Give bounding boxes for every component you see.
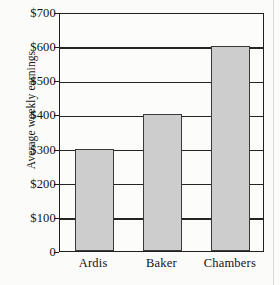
x-axis-tick-label: Ardis — [79, 256, 108, 271]
y-axis-tick-label: $100 — [2, 210, 56, 225]
bar — [143, 114, 182, 251]
page-edge-line — [273, 0, 274, 285]
plot-area — [59, 13, 264, 252]
y-axis-tick-label: $500 — [2, 74, 56, 89]
y-axis-tick-label: 0 — [2, 245, 56, 260]
x-axis-tick-label: Chambers — [204, 256, 256, 271]
y-axis-tick-label: $200 — [2, 176, 56, 191]
bar-group — [60, 14, 263, 251]
y-axis-tick-label-group: 0$100$200$300$400$500$600$700 — [0, 0, 56, 285]
bar — [211, 46, 250, 251]
y-axis-tick-mark — [54, 252, 59, 253]
y-axis-tick-label: $700 — [2, 6, 56, 21]
y-axis-tick-label: $300 — [2, 142, 56, 157]
bar-chart-figure: Average weekly earnings 0$100$200$300$40… — [0, 0, 280, 285]
y-axis-tick-label: $400 — [2, 108, 56, 123]
bar — [75, 149, 114, 251]
x-axis-tick-label: Baker — [146, 256, 177, 271]
y-axis-tick-label: $600 — [2, 40, 56, 55]
x-axis-tick-label-group: ArdisBakerChambers — [59, 256, 264, 280]
